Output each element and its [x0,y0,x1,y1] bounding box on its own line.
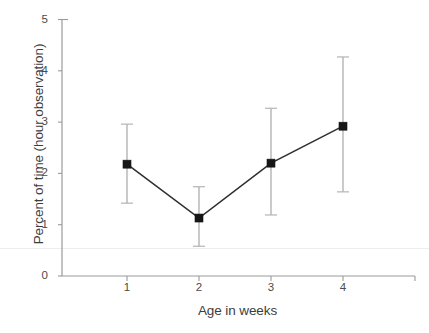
x-tick-label: 2 [187,282,211,294]
data-point-marker [123,160,131,168]
data-point-marker [195,214,203,222]
chart-figure: Percent of time (hour observation) Age i… [0,0,429,333]
axes [58,20,415,282]
plot-area [0,0,429,333]
x-tick-label: 1 [115,282,139,294]
error-bars [121,57,349,246]
series-polyline [127,126,343,218]
x-tick-label: 3 [259,282,283,294]
series-line [127,126,343,218]
data-point-markers [123,122,347,222]
data-point-marker [267,159,275,167]
data-point-marker [339,122,347,130]
x-tick-label: 4 [331,282,355,294]
